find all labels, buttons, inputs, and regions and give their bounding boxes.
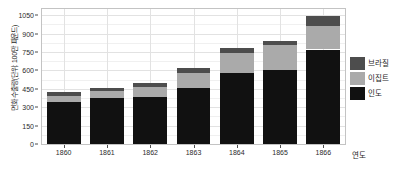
legend-item-브라질[interactable]: 브라질 [350,56,397,71]
bar-segment-이집트 [47,96,81,103]
bar-segment-인도 [263,70,297,144]
bar-1864 [220,9,254,144]
bar-1861 [90,9,124,144]
bar-segment-브라질 [177,68,211,73]
bar-segment-인도 [177,88,211,144]
y-tick-mark [35,51,38,52]
bar-segment-인도 [47,102,81,144]
y-tick-label: 450 [22,85,34,92]
y-tick-mark [35,125,38,126]
y-tick-label: 1050 [18,12,34,19]
legend-label: 이집트 [368,75,389,83]
x-tick-mark [107,145,108,148]
bar-segment-이집트 [263,45,297,70]
stacked-bar-chart: 면화 수출량(단위: 100만 파운드) 0150300450600750900… [0,0,397,171]
bar-segment-브라질 [133,83,167,87]
y-axis-tick-labels: 01503004506007509001050 [14,8,38,148]
bar-1862 [133,9,167,144]
bar-segment-인도 [133,97,167,144]
x-tick-label: 1861 [99,149,115,156]
bar-segment-브라질 [263,41,297,45]
y-tick-label: 150 [22,122,34,129]
x-tick-label: 1866 [316,149,332,156]
legend-item-이집트[interactable]: 이집트 [350,71,397,86]
bar-segment-이집트 [90,91,124,98]
bar-1865 [263,9,297,144]
x-tick-mark [150,145,151,148]
legend-swatch-icon [350,57,365,70]
bar-segment-이집트 [133,87,167,97]
x-tick-label: 1864 [229,149,245,156]
y-tick-label: 750 [22,48,34,55]
legend-swatch-icon [350,87,365,100]
legend-label: 브라질 [368,60,389,68]
bar-1866 [306,9,340,144]
x-tick-mark [323,145,324,148]
bar-1863 [177,9,211,144]
bar-segment-이집트 [306,26,340,49]
legend-swatch-icon [350,72,365,85]
y-tick-mark [35,88,38,89]
bar-segment-인도 [306,50,340,145]
x-tick-mark [64,145,65,148]
legend-item-인도[interactable]: 인도 [350,86,397,101]
x-axis-title: 연도 [352,149,366,160]
y-tick-mark [35,33,38,34]
x-tick-mark [237,145,238,148]
x-tick-label: 1862 [142,149,158,156]
x-tick-mark [280,145,281,148]
plot-panel [41,8,346,145]
bar-segment-이집트 [220,53,254,73]
y-tick-label: 600 [22,67,34,74]
bar-segment-브라질 [220,48,254,52]
bar-segment-브라질 [90,88,124,91]
bar-1860 [47,9,81,144]
y-tick-mark [35,144,38,145]
bar-segment-브라질 [47,92,81,95]
x-tick-label: 1865 [272,149,288,156]
legend: 브라질이집트인도 [350,56,397,101]
x-tick-mark [194,145,195,148]
bar-series-group [42,9,345,144]
x-tick-label: 1863 [186,149,202,156]
bar-segment-인도 [90,98,124,144]
y-tick-label: 0 [30,141,34,148]
x-axis-tick-labels: 1860186118621863186418651866 [41,145,346,167]
y-tick-label: 300 [22,104,34,111]
y-tick-mark [35,70,38,71]
bar-segment-이집트 [177,73,211,88]
y-tick-mark [35,107,38,108]
x-tick-label: 1860 [56,149,72,156]
y-tick-mark [35,15,38,16]
y-tick-label: 900 [22,30,34,37]
bar-segment-브라질 [306,16,340,26]
bar-segment-인도 [220,73,254,144]
legend-label: 인도 [368,90,382,98]
